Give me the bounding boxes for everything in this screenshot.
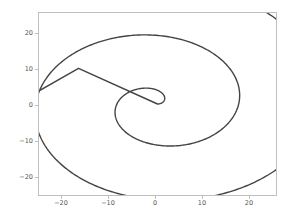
ytick-label-minus10: −10 [19,138,33,145]
xtick-label-20: 20 [245,200,253,207]
ytick-mark [35,69,38,70]
ytick-mark [35,141,38,142]
xtick-label-minus20: −20 [54,200,68,207]
ytick-label-zero: 0 [29,102,33,109]
ytick-label-minus20: −20 [19,174,33,181]
ytick-label-10: 10 [25,66,33,73]
figure-canvas: −20 −10 0 10 20 20 10 0 −10 −20 [0,0,295,224]
ytick-mark [35,177,38,178]
xtick-label-10: 10 [198,200,206,207]
ytick-mark [35,33,38,34]
plot-area [38,12,277,196]
spiral-line [39,13,276,195]
ytick-label-20: 20 [25,30,33,37]
spiral-plot-svg [39,13,276,195]
xtick-label-minus10: −10 [101,200,115,207]
xtick-label-zero: 0 [153,200,157,207]
ytick-mark [35,105,38,106]
